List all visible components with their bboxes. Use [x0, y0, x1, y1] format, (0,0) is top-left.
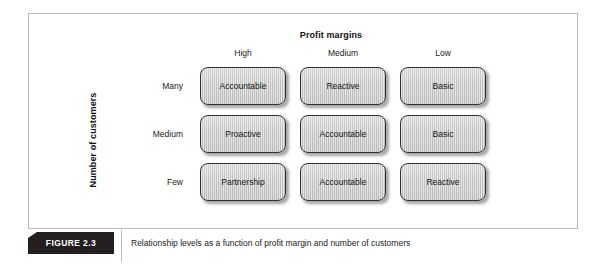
matrix-cell-many-medium[interactable]: Reactive	[293, 62, 393, 110]
matrix-cell-many-low[interactable]: Basic	[393, 62, 493, 110]
matrix-cell-medium-low[interactable]: Basic	[393, 110, 493, 158]
matrix-cell-label: Accountable	[320, 178, 367, 187]
matrix-cell-many-high[interactable]: Accountable	[193, 62, 293, 110]
column-header-medium: Medium	[293, 48, 393, 58]
matrix-cell-few-high[interactable]: Partnership	[193, 158, 293, 206]
matrix-cell-label: Accountable	[320, 130, 367, 139]
matrix-cell-box[interactable]: Basic	[400, 67, 486, 105]
matrix-cell-label: Basic	[433, 82, 454, 91]
figure-number-badge: FIGURE 2.3	[28, 232, 114, 254]
matrix-cell-box[interactable]: Partnership	[200, 163, 286, 201]
column-axis-title: Profit margins	[29, 30, 577, 40]
figure-caption-bar: FIGURE 2.3 Relationship levels as a func…	[28, 232, 578, 256]
figure-frame: Profit margins Number of customers High …	[28, 13, 578, 229]
row-axis-title-label: Number of customers	[88, 93, 98, 188]
matrix-cell-label: Basic	[433, 130, 454, 139]
row-label-few: Few	[139, 177, 193, 187]
matrix-cell-label: Accountable	[220, 82, 267, 91]
matrix-cell-label: Reactive	[326, 82, 359, 91]
matrix-cell-box[interactable]: Reactive	[400, 163, 486, 201]
matrix-cell-few-medium[interactable]: Accountable	[293, 158, 393, 206]
matrix-cell-label: Reactive	[426, 178, 459, 187]
matrix-cell-few-low[interactable]: Reactive	[393, 158, 493, 206]
matrix-cell-medium-high[interactable]: Proactive	[193, 110, 293, 158]
relationship-matrix: High Medium Low Many Accountable Reactiv…	[139, 48, 539, 206]
column-axis-title-label: Profit margins	[300, 30, 362, 40]
matrix-cell-box[interactable]: Proactive	[200, 115, 286, 153]
matrix-cell-box[interactable]: Reactive	[300, 67, 386, 105]
matrix-cell-box[interactable]: Accountable	[200, 67, 286, 105]
column-header-low: Low	[393, 48, 493, 58]
row-label-medium: Medium	[139, 129, 193, 139]
column-header-row: High Medium Low	[139, 48, 539, 58]
row-axis-title: Number of customers	[86, 76, 100, 204]
matrix-cell-box[interactable]: Accountable	[300, 163, 386, 201]
matrix-row-medium: Medium Proactive Accountable Basic	[139, 110, 539, 158]
matrix-cell-medium-medium[interactable]: Accountable	[293, 110, 393, 158]
matrix-cell-box[interactable]: Basic	[400, 115, 486, 153]
matrix-cell-label: Proactive	[225, 130, 260, 139]
row-label-many: Many	[139, 81, 193, 91]
column-header-high: High	[193, 48, 293, 58]
matrix-cell-label: Partnership	[221, 178, 264, 187]
matrix-row-few: Few Partnership Accountable Reactive	[139, 158, 539, 206]
matrix-row-many: Many Accountable Reactive Basic	[139, 62, 539, 110]
figure-caption-text: Relationship levels as a function of pro…	[131, 232, 410, 254]
caption-divider	[121, 230, 122, 262]
matrix-cell-box[interactable]: Accountable	[300, 115, 386, 153]
